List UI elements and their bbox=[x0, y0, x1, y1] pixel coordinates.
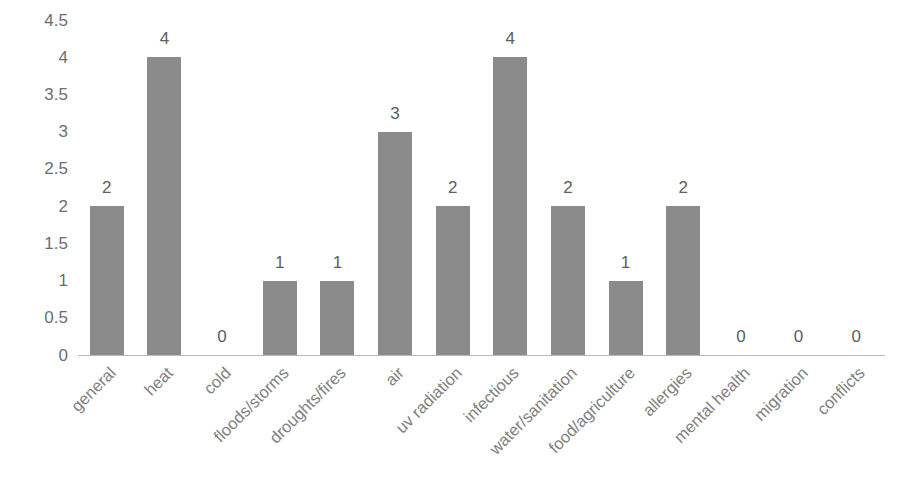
bar-value-label: 0 bbox=[217, 328, 226, 345]
bar-value-label: 2 bbox=[448, 179, 457, 196]
y-axis-tick-label: 1 bbox=[0, 272, 68, 289]
y-axis-tick-label: 4.5 bbox=[0, 12, 68, 29]
x-label-slot: mental health bbox=[712, 356, 770, 503]
y-axis-tick-label: 2.5 bbox=[0, 160, 68, 177]
x-label-slot: general bbox=[78, 356, 136, 503]
x-label-slot: conflicts bbox=[827, 356, 885, 503]
bar-value-label: 1 bbox=[333, 254, 342, 271]
bar-slot: 1 bbox=[251, 20, 309, 355]
plot-area: 24011324212000 bbox=[78, 20, 885, 355]
y-axis-tick-label: 1.5 bbox=[0, 235, 68, 252]
x-label-slot: uv radiation bbox=[424, 356, 482, 503]
y-axis-tick-labels: 00.511.522.533.544.5 bbox=[0, 0, 68, 503]
bar-value-label: 0 bbox=[736, 328, 745, 345]
bar[interactable] bbox=[90, 206, 124, 355]
bar-slot: 2 bbox=[78, 20, 136, 355]
bar-value-label: 4 bbox=[160, 30, 169, 47]
x-label-slot: migration bbox=[770, 356, 828, 503]
x-label-slot: droughts/fires bbox=[309, 356, 367, 503]
y-axis-tick-label: 0 bbox=[0, 347, 68, 364]
y-axis-tick-label: 3 bbox=[0, 123, 68, 140]
y-axis-tick-label: 0.5 bbox=[0, 309, 68, 326]
x-label-slot: heat bbox=[136, 356, 194, 503]
bar-value-label: 2 bbox=[102, 179, 111, 196]
bar-slot: 4 bbox=[136, 20, 194, 355]
bar[interactable] bbox=[436, 206, 470, 355]
bar-value-label: 1 bbox=[275, 254, 284, 271]
x-axis-category-labels: generalheatcoldfloods/stormsdroughts/fir… bbox=[78, 356, 885, 503]
bar-slot: 2 bbox=[424, 20, 482, 355]
y-axis-tick-label: 3.5 bbox=[0, 86, 68, 103]
bar-slot: 0 bbox=[827, 20, 885, 355]
y-axis-tick-label: 4 bbox=[0, 49, 68, 66]
x-axis-category-label-text: air bbox=[382, 364, 407, 389]
bar-value-label: 1 bbox=[621, 254, 630, 271]
x-label-slot: air bbox=[366, 356, 424, 503]
bar-value-label: 4 bbox=[506, 30, 515, 47]
bar-value-label: 2 bbox=[679, 179, 688, 196]
bar[interactable] bbox=[263, 281, 297, 355]
y-axis-tick-label: 2 bbox=[0, 198, 68, 215]
bar-chart: 00.511.522.533.544.5 24011324212000 gene… bbox=[0, 0, 902, 503]
bar-value-label: 2 bbox=[563, 179, 572, 196]
x-axis-category-label-text: cold bbox=[201, 364, 234, 397]
bar-slot: 0 bbox=[193, 20, 251, 355]
bar-slot: 0 bbox=[712, 20, 770, 355]
x-axis-category-label-text: general bbox=[68, 364, 119, 415]
bar-value-label: 3 bbox=[390, 105, 399, 122]
x-axis-category-label-text: heat bbox=[142, 364, 176, 398]
x-label-slot: food/agriculture bbox=[597, 356, 655, 503]
bar[interactable] bbox=[147, 57, 181, 355]
bar-slot: 2 bbox=[539, 20, 597, 355]
